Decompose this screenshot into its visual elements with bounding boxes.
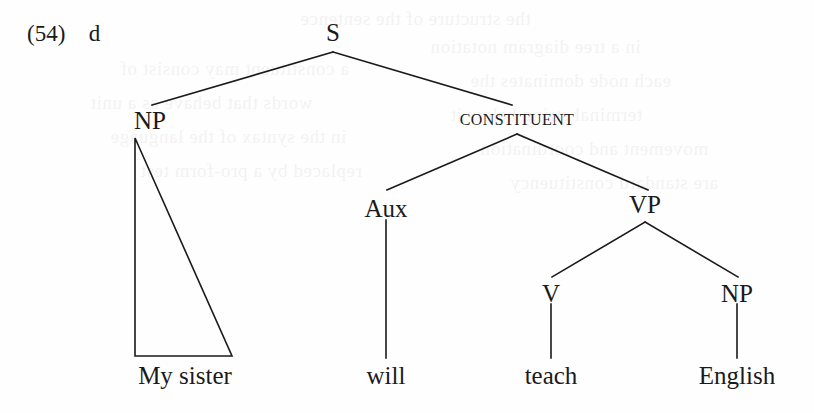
- tree-terminal-t-english: English: [699, 363, 775, 388]
- tree-edge-vp-v: [552, 222, 645, 277]
- tree-edge-const-aux: [387, 134, 517, 190]
- tree-terminal-t-will: will: [367, 363, 406, 388]
- tree-edge-s-const: [333, 52, 512, 105]
- tree-terminal-t-my-sister: My sister: [138, 363, 232, 388]
- tree-node-const: CONSTITUENT: [460, 112, 575, 128]
- tree-terminal-t-teach: teach: [525, 363, 578, 388]
- tree-edge-s-np1: [152, 52, 333, 105]
- tree-edge-vp-np2: [645, 222, 738, 277]
- tree-node-s: S: [326, 20, 340, 45]
- figure-syntax-tree: the structure of the sentencea constitue…: [0, 0, 814, 413]
- tree-node-vp: VP: [629, 192, 661, 217]
- tree-node-aux: Aux: [364, 196, 407, 221]
- tree-node-v: V: [542, 281, 560, 306]
- tree-node-np1: NP: [134, 108, 166, 133]
- tree-edge-const-vp: [517, 134, 648, 190]
- tree-node-np2: NP: [721, 281, 753, 306]
- np1-triangle: [135, 138, 232, 356]
